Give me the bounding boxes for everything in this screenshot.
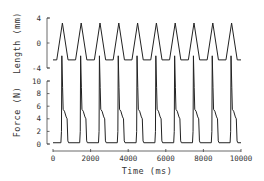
svg-text:4: 4 bbox=[36, 14, 41, 23]
length-force-chart: Length (mm) Force (N) Time (ms) -404 024… bbox=[0, 0, 264, 181]
svg-text:8000: 8000 bbox=[194, 154, 213, 163]
svg-text:0: 0 bbox=[36, 39, 41, 48]
svg-text:2: 2 bbox=[36, 127, 41, 136]
time-axis-label: Time (ms) bbox=[122, 166, 173, 176]
svg-text:10000: 10000 bbox=[230, 154, 253, 163]
svg-text:-4: -4 bbox=[32, 64, 42, 73]
svg-text:4: 4 bbox=[36, 114, 41, 123]
length-axis-label: Length (mm) bbox=[12, 12, 22, 74]
svg-text:0: 0 bbox=[51, 154, 56, 163]
force-y-axis: 0246810 bbox=[32, 77, 50, 149]
force-axis-label: Force (N) bbox=[12, 87, 22, 138]
length-trace bbox=[53, 23, 241, 60]
force-trace bbox=[53, 56, 241, 143]
svg-text:10: 10 bbox=[32, 77, 42, 86]
time-x-axis: 0200040006000800010000 bbox=[51, 149, 253, 163]
svg-text:0: 0 bbox=[36, 140, 41, 149]
svg-text:8: 8 bbox=[36, 89, 41, 98]
svg-text:4000: 4000 bbox=[119, 154, 138, 163]
svg-text:6000: 6000 bbox=[157, 154, 176, 163]
svg-text:6: 6 bbox=[36, 102, 41, 111]
length-y-axis: -404 bbox=[32, 14, 50, 73]
svg-text:2000: 2000 bbox=[82, 154, 101, 163]
